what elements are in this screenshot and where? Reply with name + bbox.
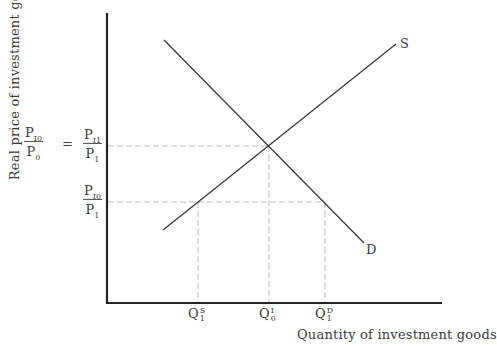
demand-curve-label: D <box>366 243 376 256</box>
left-price-ratio: PI0 P0 <box>24 126 43 158</box>
quantity-label-qd1: QD1 <box>315 307 333 323</box>
upper-price-label: PI1 P1 <box>83 128 102 160</box>
supply-curve-label: S <box>400 37 409 50</box>
demand-curve <box>164 40 364 243</box>
quantity-label-qs1: QS1 <box>188 307 205 323</box>
quantity-label-qi0: QI0 <box>259 307 276 323</box>
lower-price-label: PI0 P1 <box>83 184 102 216</box>
x-axis-label: Quantity of investment goods <box>297 327 497 342</box>
equals-sign: = <box>62 136 73 151</box>
y-axis-label: Real price of investment goods <box>7 0 22 180</box>
